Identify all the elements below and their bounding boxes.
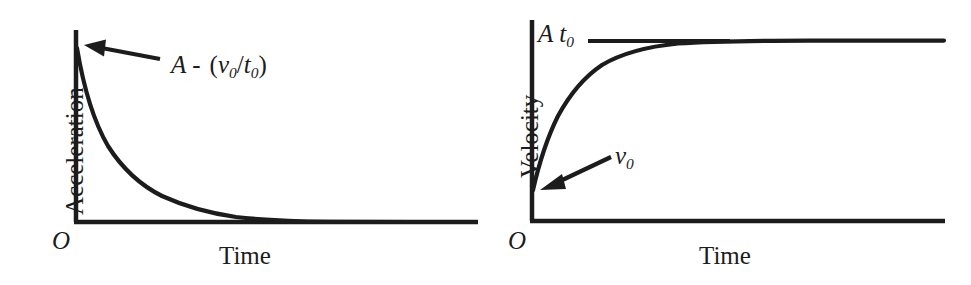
acceleration-y-axis-label: Acceleration bbox=[62, 87, 87, 215]
velocity-annotation-arrow bbox=[540, 157, 611, 190]
annotation-minus-operator: - bbox=[186, 51, 204, 78]
terminal-velocity-label: At0 bbox=[538, 21, 574, 49]
asymptote-label-A: A bbox=[538, 20, 553, 47]
annotation-open-paren: ( bbox=[205, 51, 218, 78]
annotation-term-A: A bbox=[171, 51, 186, 78]
velocity-panel: Velocity O Time At0 v0 bbox=[480, 0, 971, 285]
acceleration-x-axis-label: Time bbox=[219, 243, 271, 268]
physics-figure-two-panel: Acceleration O Time A-(v0/t0) bbox=[0, 0, 971, 285]
initial-velocity-annotation: v0 bbox=[615, 143, 634, 171]
velocity-y-axis-label: Velocity bbox=[517, 95, 542, 178]
annotation-v-subscript: 0 bbox=[229, 64, 237, 81]
velocity-origin-label: O bbox=[508, 228, 526, 253]
asymptote-label-t: t bbox=[553, 20, 566, 47]
v0-symbol: v bbox=[615, 142, 626, 169]
asymptote-label-subscript: 0 bbox=[566, 33, 574, 50]
acceleration-annotation-arrow bbox=[84, 40, 160, 60]
annotation-t-symbol: t bbox=[244, 51, 251, 78]
velocity-x-axis-label: Time bbox=[699, 243, 751, 268]
velocity-rise-curve bbox=[533, 41, 944, 190]
acceleration-origin-label: O bbox=[52, 228, 70, 253]
acceleration-decay-curve bbox=[77, 48, 476, 222]
initial-acceleration-annotation: A-(v0/t0) bbox=[171, 52, 267, 80]
v0-subscript: 0 bbox=[626, 155, 634, 172]
annotation-slash: / bbox=[237, 51, 244, 78]
annotation-close-paren: ) bbox=[258, 51, 266, 78]
acceleration-panel: Acceleration O Time A-(v0/t0) bbox=[0, 0, 490, 285]
annotation-v-symbol: v bbox=[218, 51, 229, 78]
